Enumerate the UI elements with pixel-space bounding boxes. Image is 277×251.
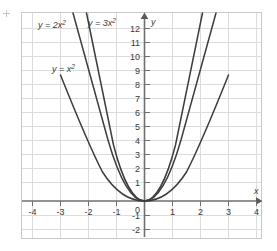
y-tick-label: 2 — [135, 164, 140, 174]
x-tick-label: 4 — [254, 207, 259, 217]
y-tick-label: 8 — [135, 80, 140, 90]
y-tick-label: 9 — [135, 66, 140, 76]
y-tick-label: 4 — [135, 136, 140, 146]
x-tick-label: 2 — [198, 207, 203, 217]
origin-label: 0 — [135, 205, 140, 215]
x-tick-label: -2 — [84, 207, 92, 217]
y-tick-label: 11 — [131, 38, 140, 48]
curve-label-2x-squared: y = 2x2 — [37, 19, 66, 30]
y-tick-label: 6 — [135, 108, 140, 118]
x-tick-label: -1 — [112, 207, 120, 217]
y-tick-label: 12 — [130, 24, 140, 34]
y-tick-label: 7 — [135, 94, 140, 104]
y-tick-label: 5 — [135, 122, 140, 132]
plot-frame — [22, 13, 262, 239]
y-axis-name: y — [150, 17, 156, 27]
y-tick-label: 10 — [130, 52, 140, 62]
x-tick-label: 3 — [226, 207, 231, 217]
y-tick-label: 1 — [135, 178, 140, 188]
x-tick-label: -3 — [56, 207, 64, 217]
y-tick-label: -2 — [132, 225, 140, 235]
parabola-comparison-graph: -4 -3 -2 -1 1 2 3 4 12 11 10 9 8 7 6 5 4… — [0, 0, 277, 251]
y-tick-label: 3 — [135, 150, 140, 160]
x-tick-label: 1 — [170, 207, 175, 217]
x-axis-name: x — [253, 186, 259, 196]
curve-label-3x-squared: y = 3x2 — [87, 17, 116, 28]
x-tick-label: -4 — [28, 207, 36, 217]
